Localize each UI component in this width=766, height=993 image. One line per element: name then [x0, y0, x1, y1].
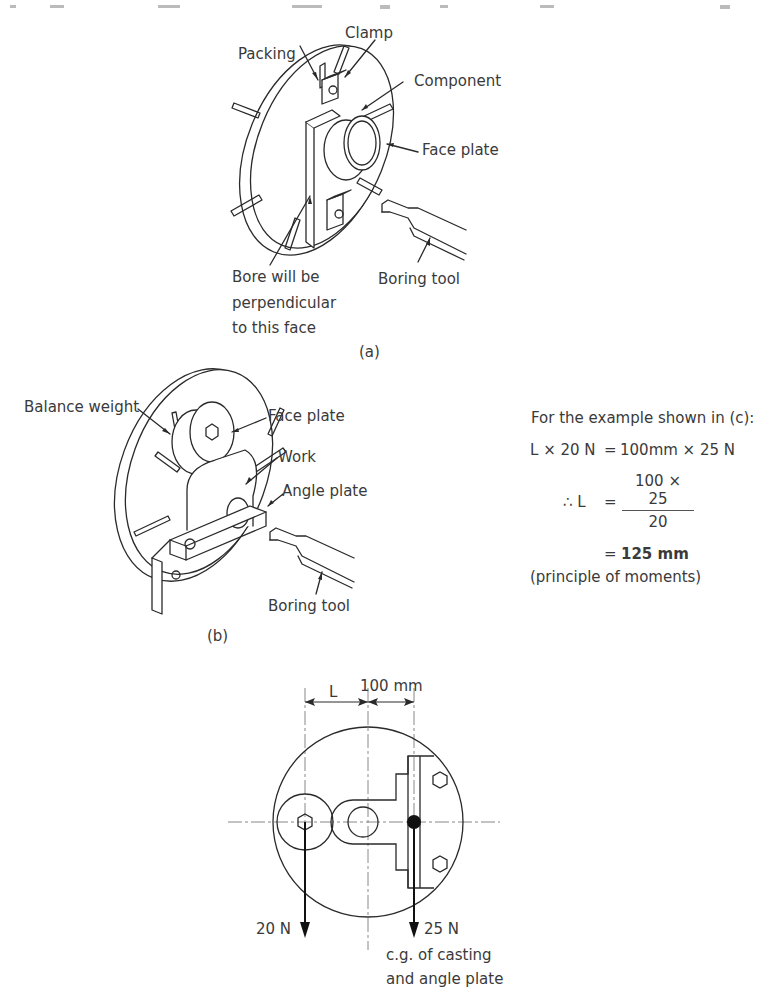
force-label-20n: 20 N — [256, 920, 291, 938]
cg-label-line-2: and angle plate — [386, 970, 503, 988]
figure-c-drawing — [0, 0, 766, 993]
hex-bolt-top — [433, 772, 447, 788]
dimension-label-100mm: 100 mm — [360, 677, 423, 695]
dimension-label-L: L — [329, 683, 337, 701]
hex-bolt-bottom — [433, 856, 447, 872]
casting-outline-bottom — [368, 844, 434, 888]
force-label-25n: 25 N — [424, 920, 459, 938]
casting-outline-top — [368, 756, 434, 800]
cg-label-line-1: c.g. of casting — [386, 946, 492, 964]
